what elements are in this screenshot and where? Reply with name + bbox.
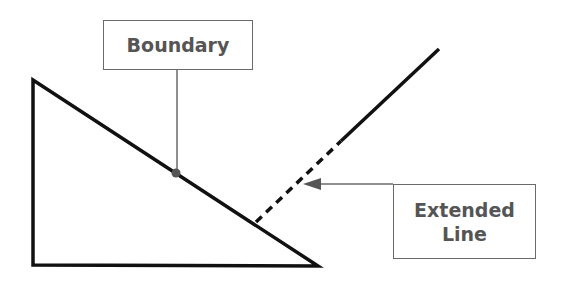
arrowhead-icon bbox=[303, 178, 321, 190]
boundary-point-marker bbox=[172, 169, 181, 178]
boundary-label-text: Boundary bbox=[127, 33, 230, 57]
extended-line-label-text-2: Line bbox=[442, 222, 487, 246]
extended-line-label: Extended Line bbox=[393, 184, 536, 259]
extended-line-solid bbox=[341, 49, 439, 141]
extended-line-dashed bbox=[256, 141, 341, 222]
boundary-label: Boundary bbox=[103, 20, 253, 70]
extended-line-label-text-1: Extended bbox=[414, 198, 515, 222]
